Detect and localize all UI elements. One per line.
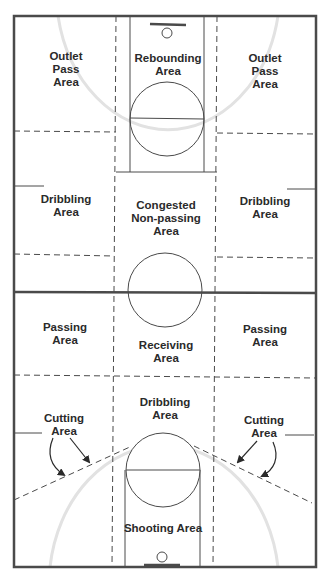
right-cutting-arrow-curved: [262, 442, 276, 476]
bottom-hoop: [157, 552, 167, 562]
label-congested-non-passing-area: Congested Non-passing Area: [123, 199, 209, 238]
label-dribbling-area-right: Dribbling Area: [235, 195, 295, 221]
label-rebounding-area: Rebounding Area: [128, 52, 208, 78]
label-outlet-pass-area-left: Outlet Pass Area: [36, 50, 96, 89]
top-backboard: [150, 24, 186, 25]
top-hoop: [162, 28, 172, 38]
label-passing-area-left: Passing Area: [35, 321, 95, 347]
lower-zone-divider: [14, 375, 316, 378]
left-cutting-line: [14, 446, 132, 500]
label-outlet-pass-area-right: Outlet Pass Area: [235, 52, 295, 91]
top-left-zone-divider: [14, 131, 116, 132]
mid-left-zone-divider: [14, 254, 114, 256]
left-cutting-arrow-straight: [70, 438, 89, 462]
mid-right-zone-divider: [217, 257, 316, 258]
label-cutting-area-left: Cutting Area: [34, 412, 94, 438]
label-passing-area-right: Passing Area: [235, 323, 295, 349]
center-circle: [128, 253, 202, 327]
label-shooting-area: Shooting Area: [122, 522, 204, 535]
label-dribbling-area-center: Dribbling Area: [130, 396, 200, 422]
right-cutting-arrow-straight: [238, 441, 257, 462]
top-free-throw-line: [130, 118, 204, 119]
label-cutting-area-right: Cutting Area: [234, 414, 294, 440]
half-court-line: [14, 292, 316, 293]
label-dribbling-area-left: Dribbling Area: [36, 193, 96, 219]
top-right-zone-divider: [217, 133, 316, 134]
label-receiving-area: Receiving Area: [128, 339, 204, 365]
left-cutting-arrow-curved: [50, 438, 64, 475]
